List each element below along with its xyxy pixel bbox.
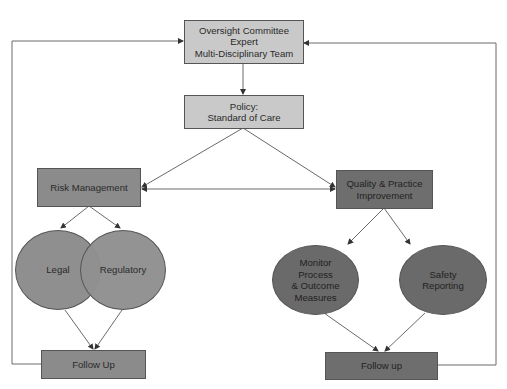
regulatory-circle: Regulatory [80,230,166,310]
quality-line-2: Improvement [346,190,422,202]
safety-reporting-circle: Safety Reporting [399,245,487,315]
edge-monitor-followup [324,313,378,351]
monitor-line-2: Process [292,269,340,281]
regulatory-label: Regulatory [100,264,146,276]
oversight-committee-box: Oversight Committee Expert Multi-Discipl… [184,20,304,64]
follow-up-right-box: Follow up [325,352,438,380]
edge-risk-legal [61,206,89,228]
policy-line-1: Policy: [207,101,280,113]
follow-up-right-label: Follow up [361,360,402,372]
safety-line-2: Reporting [422,280,464,292]
quality-line-1: Quality & Practice [346,178,422,190]
oversight-line-1: Oversight Committee [195,25,293,37]
risk-management-label: Risk Management [50,182,127,194]
risk-management-box: Risk Management [37,168,141,207]
follow-up-left-box: Follow Up [41,350,146,379]
safety-line-1: Safety [422,269,464,281]
edge-regulatory-followup [95,310,122,349]
quality-improvement-box: Quality & Practice Improvement [336,170,433,209]
edge-quality-safety [384,208,410,244]
edge-policy-quality [243,128,335,187]
edge-quality-monitor [348,208,384,244]
edge-risk-regulatory [89,206,120,228]
monitor-line-4: Measures [292,292,340,304]
edge-safety-followup [385,313,425,351]
legal-label: Legal [46,264,69,276]
edge-legal-followup [65,310,93,349]
monitor-line-3: & Outcome [292,280,340,292]
policy-box: Policy: Standard of Care [184,95,304,129]
oversight-line-2: Expert [195,36,293,48]
diagram-canvas: Oversight Committee Expert Multi-Discipl… [0,0,507,389]
monitor-line-1: Monitor [292,257,340,269]
follow-up-left-label: Follow Up [72,359,115,371]
monitor-circle: Monitor Process & Outcome Measures [272,245,359,315]
policy-line-2: Standard of Care [207,112,280,124]
oversight-line-3: Multi-Disciplinary Team [195,48,293,60]
edge-policy-risk [142,128,243,187]
